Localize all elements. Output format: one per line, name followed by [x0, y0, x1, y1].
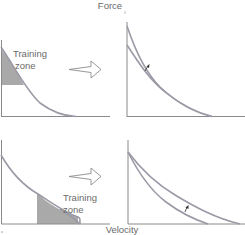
right-arrow-icon — [69, 61, 101, 78]
training-zone-label-line2: zone — [15, 60, 36, 71]
original-curve — [128, 152, 208, 224]
shifted-curve — [127, 26, 212, 117]
training-zone-label-line1: Training — [13, 48, 47, 59]
force-velocity-diagram: Force Training zone — [0, 0, 245, 235]
force-axis-label: Force — [98, 0, 122, 11]
right-arrow-icon — [69, 168, 101, 185]
panel-bottom-right — [128, 140, 245, 224]
training-zone-label-line2: zone — [63, 204, 84, 215]
panel-top-left: Training zone — [1, 40, 110, 117]
shift-up-arrow-icon — [185, 205, 189, 212]
panel-top-right — [127, 22, 245, 117]
panel-bottom-left: Training zone — [1, 140, 110, 233]
training-zone-label-line1: Training — [63, 192, 97, 203]
velocity-axis-label: Velocity — [106, 224, 139, 235]
